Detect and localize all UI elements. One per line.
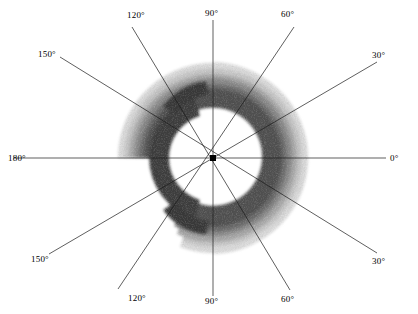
angle-label-120-upper: 120° [127, 10, 145, 20]
polar-contour-plot [0, 0, 418, 314]
angle-label-30-upper: 30° [372, 50, 385, 60]
angle-label-60-lower: 60° [281, 294, 294, 304]
center-origin-marker [210, 155, 216, 161]
angle-label-180-left: 180° [8, 153, 26, 163]
angle-label-150-lower: 150° [31, 254, 49, 264]
angle-label-90-lower: 90° [205, 296, 218, 306]
angle-label-120-lower: 120° [128, 293, 146, 303]
plot-background [0, 0, 418, 314]
angle-label-60-upper: 60° [281, 9, 294, 19]
angle-label-30-lower: 30° [372, 256, 385, 266]
angle-label-150-upper: 150° [38, 49, 56, 59]
angle-label-0-right: 0° [390, 153, 399, 163]
angle-label-90-upper: 90° [205, 8, 218, 18]
